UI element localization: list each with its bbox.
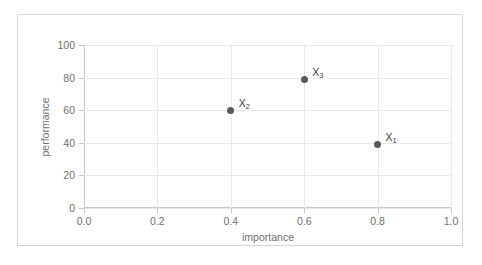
gridline-horizontal	[84, 78, 451, 79]
gridline-vertical	[378, 45, 379, 208]
x-axis-tick	[378, 208, 379, 213]
x-axis-tick	[304, 208, 305, 213]
gridline-horizontal	[84, 175, 451, 176]
y-axis-line	[84, 45, 85, 208]
y-axis-tick-label: 100	[57, 39, 75, 51]
data-point-x1[interactable]	[374, 141, 381, 148]
x-axis-tick-label: 0.6	[297, 215, 312, 227]
x-axis-tick-label: 0.8	[370, 215, 385, 227]
chart-frame: performance importance 0204060801000.00.…	[17, 14, 463, 246]
y-axis-tick	[79, 45, 84, 46]
chart-screenshot: performance importance 0204060801000.00.…	[0, 0, 482, 265]
x-axis-tick	[157, 208, 158, 213]
gridline-horizontal	[84, 45, 451, 46]
y-axis-tick	[79, 175, 84, 176]
x-axis-tick-label: 0.0	[77, 215, 92, 227]
y-axis-tick-label: 40	[63, 137, 75, 149]
y-axis-tick-label: 20	[63, 169, 75, 181]
y-axis-tick-label: 80	[63, 72, 75, 84]
y-axis-tick	[79, 143, 84, 144]
x-axis-tick-label: 0.4	[223, 215, 238, 227]
gridline-vertical	[157, 45, 158, 208]
gridline-vertical	[304, 45, 305, 208]
y-axis-tick-label: 60	[63, 104, 75, 116]
x-axis-tick	[231, 208, 232, 213]
data-point-label-x3: X3	[312, 66, 323, 78]
y-axis-tick-label: 0	[69, 202, 75, 214]
y-axis-title: performance	[39, 98, 51, 157]
data-point-x2[interactable]	[227, 107, 234, 114]
gridline-horizontal	[84, 110, 451, 111]
gridline-vertical	[231, 45, 232, 208]
y-axis-tick	[79, 110, 84, 111]
data-point-x3[interactable]	[301, 76, 308, 83]
gridline-horizontal	[84, 208, 451, 209]
x-axis-tick	[451, 208, 452, 213]
data-point-label-x2: X2	[239, 97, 250, 109]
data-point-label-x1: X1	[386, 131, 397, 143]
y-axis-tick	[79, 78, 84, 79]
x-axis-tick-label: 1.0	[444, 215, 459, 227]
gridline-vertical	[451, 45, 452, 208]
x-axis-tick	[84, 208, 85, 213]
x-axis-title: importance	[242, 231, 294, 243]
plot-area: 0204060801000.00.20.40.60.81.0X2X3X1	[84, 45, 451, 208]
x-axis-tick-label: 0.2	[150, 215, 165, 227]
